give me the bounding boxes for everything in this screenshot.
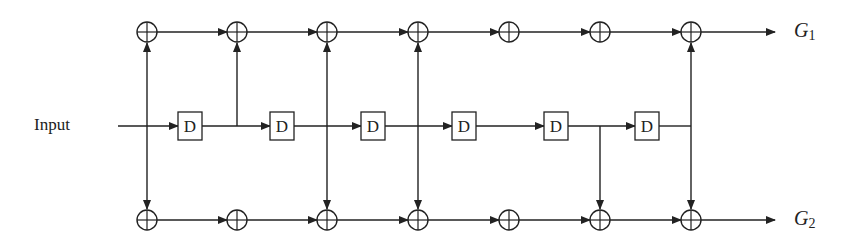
xor-icon [227, 22, 247, 42]
input-label: Input [34, 115, 70, 135]
xor-icon [681, 22, 701, 42]
xor-icon [499, 22, 519, 42]
xor-icon [317, 210, 337, 230]
xor-icon [137, 22, 157, 42]
xor-icon [408, 210, 428, 230]
xor-icon [681, 210, 701, 230]
xor-icon [590, 210, 610, 230]
xor-icon [317, 22, 337, 42]
xor-icon [590, 22, 610, 42]
svg-text:D: D [276, 117, 288, 136]
output-g1-label: G1 [794, 19, 815, 44]
xor-icon [227, 210, 247, 230]
xor-icon [408, 22, 428, 42]
encoder-diagram: DDDDDD Input G1 G2 [0, 0, 858, 242]
svg-text:D: D [550, 117, 562, 136]
output-g2-label: G2 [794, 207, 815, 232]
diagram-canvas: DDDDDD [0, 0, 858, 242]
xor-icon [499, 210, 519, 230]
svg-text:D: D [458, 117, 470, 136]
svg-text:D: D [641, 117, 653, 136]
svg-text:D: D [184, 117, 196, 136]
svg-text:D: D [367, 117, 379, 136]
xor-icon [137, 210, 157, 230]
